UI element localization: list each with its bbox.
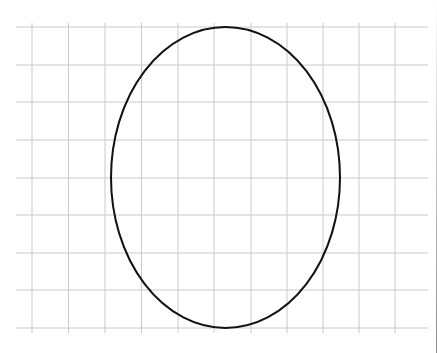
grid bbox=[16, 23, 428, 333]
grid-ellipse-diagram bbox=[0, 0, 437, 353]
